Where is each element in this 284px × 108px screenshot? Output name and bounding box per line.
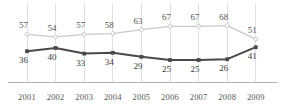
marker-upper-series-2009 xyxy=(254,37,258,41)
marker-upper-series-2002 xyxy=(54,35,58,39)
x-tick-2004: 2004 xyxy=(104,92,122,102)
x-tick-2008: 2008 xyxy=(218,92,236,102)
point-label-upper-series-2005: 63 xyxy=(133,16,143,26)
marker-lower-series-2004 xyxy=(111,51,115,55)
point-label-upper-series-2007: 67 xyxy=(191,12,201,22)
point-label-lower-series-2006: 25 xyxy=(162,64,172,74)
marker-lower-series-2007 xyxy=(197,58,201,62)
data-point-labels: 575457586367676851364033342925252641 xyxy=(19,12,257,74)
line-chart: 575457586367676851364033342925252641 200… xyxy=(0,0,284,108)
marker-upper-series-2006 xyxy=(168,25,172,29)
marker-upper-series-2001 xyxy=(25,33,29,37)
x-tick-2002: 2002 xyxy=(47,92,65,102)
marker-lower-series-2005 xyxy=(140,55,144,59)
marker-lower-series-2002 xyxy=(54,46,58,50)
point-label-upper-series-2004: 58 xyxy=(105,20,115,30)
x-tick-2001: 2001 xyxy=(18,92,36,102)
point-label-upper-series-2008: 68 xyxy=(219,12,229,22)
point-label-lower-series-2007: 25 xyxy=(191,64,201,74)
point-label-lower-series-2008: 26 xyxy=(219,63,229,73)
plot-area: 575457586367676851364033342925252641 200… xyxy=(0,0,284,108)
point-label-upper-series-2003: 57 xyxy=(76,20,86,30)
x-tick-2007: 2007 xyxy=(190,92,208,102)
marker-lower-series-2009 xyxy=(254,45,258,49)
chart-canvas: 575457586367676851364033342925252641 200… xyxy=(0,0,284,108)
point-label-upper-series-2001: 57 xyxy=(19,20,29,30)
point-label-lower-series-2001: 36 xyxy=(19,55,29,65)
point-label-upper-series-2006: 67 xyxy=(162,12,172,22)
x-tick-2009: 2009 xyxy=(247,92,265,102)
x-tick-2005: 2005 xyxy=(132,92,150,102)
x-tick-2006: 2006 xyxy=(161,92,179,102)
marker-lower-series-2008 xyxy=(225,57,229,61)
marker-lower-series-2003 xyxy=(82,52,86,56)
point-label-lower-series-2005: 29 xyxy=(133,61,143,71)
marker-upper-series-2007 xyxy=(197,25,201,29)
point-label-lower-series-2002: 40 xyxy=(48,52,58,62)
point-label-upper-series-2009: 51 xyxy=(248,25,257,35)
marker-lower-series-2001 xyxy=(25,49,29,53)
marker-upper-series-2003 xyxy=(82,33,86,37)
marker-upper-series-2005 xyxy=(140,28,144,32)
x-tick-2003: 2003 xyxy=(75,92,93,102)
point-label-lower-series-2004: 34 xyxy=(105,57,115,67)
marker-upper-series-2008 xyxy=(225,24,229,28)
marker-upper-series-2004 xyxy=(111,32,115,36)
point-label-lower-series-2003: 33 xyxy=(76,58,86,68)
point-label-lower-series-2009: 41 xyxy=(248,51,257,61)
marker-lower-series-2006 xyxy=(168,58,172,62)
x-axis-tick-labels: 200120022003200420052006200720082009 xyxy=(18,92,265,102)
point-label-upper-series-2002: 54 xyxy=(48,23,58,33)
